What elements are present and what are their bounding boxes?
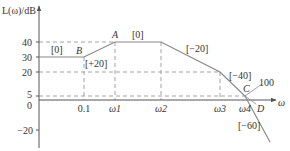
slope-label-minus40: [−40]	[229, 70, 251, 81]
y-tick-30: 30	[22, 52, 32, 63]
slope-label-minus20: [−20]	[186, 43, 208, 54]
point-C: C	[243, 83, 250, 94]
y-axis-label: L(ω)/dB	[2, 5, 36, 17]
y-tick-20: 20	[22, 67, 32, 78]
point-A: A	[111, 29, 119, 40]
slope-label-0-left: [0]	[51, 44, 63, 55]
annotation-100: 100	[259, 77, 274, 88]
x-tick-omega4: ω4	[239, 103, 251, 114]
y-tick-minus20: −20	[17, 125, 33, 136]
bode-plot: L(ω)/dB ω 40 30 20 5 0 −20 0.1 ω1 ω2 ω3 …	[0, 0, 290, 151]
y-tick-5: 5	[27, 89, 32, 100]
point-B: B	[76, 45, 82, 56]
slope-label-0-mid: [0]	[132, 29, 144, 40]
y-tick-0: 0	[27, 100, 32, 111]
slope-label-minus60: [−60]	[238, 120, 260, 131]
point-D: D	[256, 103, 265, 114]
bode-plot-svg: L(ω)/dB ω 40 30 20 5 0 −20 0.1 ω1 ω2 ω3 …	[0, 0, 290, 151]
x-tick-omega1: ω1	[109, 103, 121, 114]
y-tick-40: 40	[22, 37, 32, 48]
x-tick-omega2: ω2	[155, 103, 167, 114]
magnitude-curve	[39, 42, 270, 142]
guide-lines	[39, 42, 245, 100]
x-tick-omega3: ω3	[214, 103, 226, 114]
x-tick-0.1: 0.1	[78, 103, 91, 114]
slope-label-plus20: [+20]	[85, 58, 107, 69]
x-axis-label: ω	[278, 97, 285, 108]
